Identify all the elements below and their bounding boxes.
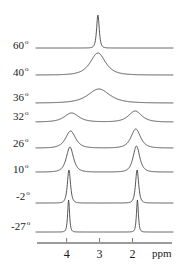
temperature-label: 40o (13, 66, 29, 78)
x-axis-group (37, 238, 172, 243)
temperature-label: 26o (13, 137, 29, 149)
degree-symbol-icon: o (27, 219, 31, 227)
degree-symbol-icon: o (25, 136, 29, 144)
temperature-label: 60o (13, 39, 29, 51)
temperature-value: -27 (11, 220, 26, 232)
axis-tick-label: 2 (122, 248, 142, 260)
temperature-label: 32o (13, 110, 29, 122)
temperature-value: 26 (13, 137, 24, 149)
temperature-label: 36o (13, 91, 29, 103)
temperature-value: 60 (13, 39, 24, 51)
spectrum-trace (36, 53, 173, 75)
degree-symbol-icon: o (25, 90, 29, 98)
axis-tick-label: 3 (90, 248, 110, 260)
spectrum-trace (36, 89, 173, 103)
temperature-label: 10o (13, 163, 29, 175)
temperature-value: 32 (13, 110, 24, 122)
spectrum-trace (36, 111, 173, 122)
spectrum-trace (36, 129, 173, 148)
temperature-value: 40 (13, 66, 24, 78)
degree-symbol-icon: o (25, 162, 29, 170)
spectrum-trace (36, 15, 173, 48)
temperature-value: -2 (16, 190, 25, 202)
axis-unit-label: ppm (152, 248, 172, 259)
axis-tick-label: 4 (57, 248, 77, 260)
temperature-value: 36 (13, 91, 24, 103)
spectrum-trace (36, 170, 173, 203)
nmr-stacked-spectra-figure: 60o40o36o32o26o10o-2o-27o 432 ppm (0, 0, 193, 274)
temperature-label: -2o (16, 190, 30, 202)
spectra-traces-group (36, 15, 173, 232)
temperature-value: 10 (13, 163, 24, 175)
temperature-label: -27o (11, 220, 30, 232)
degree-symbol-icon: o (25, 38, 29, 46)
degree-symbol-icon: o (25, 109, 29, 117)
spectrum-trace (36, 146, 173, 172)
degree-symbol-icon: o (25, 65, 29, 73)
degree-symbol-icon: o (26, 189, 30, 197)
spectrum-trace (36, 200, 173, 232)
